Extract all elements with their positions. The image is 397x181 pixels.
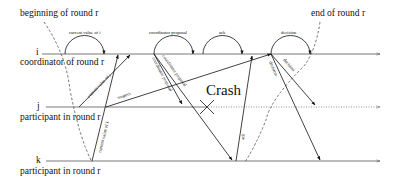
arc-ack <box>203 36 242 54</box>
process-j-name: j <box>36 101 40 111</box>
consensus-round-diagram: i coordinator of round r j participant i… <box>0 0 397 181</box>
phase-label-ack: ack <box>219 30 226 35</box>
msg-ack <box>236 56 252 161</box>
msg-label-decision-j: decision <box>282 57 296 72</box>
arc-decision <box>271 36 310 54</box>
msg-suspect <box>106 54 271 107</box>
process-k-role: participant in round r <box>20 166 101 176</box>
arc-current-value-i <box>65 36 104 54</box>
phase-label-decision: decision <box>281 30 297 35</box>
process-j-role: participant in round r <box>20 112 101 122</box>
process-i-name: i <box>36 47 39 57</box>
beginning-of-round-boundary <box>44 22 92 162</box>
arc-coordinator-proposal <box>154 36 193 54</box>
phase-label-current-value-i: current value of i <box>69 30 101 35</box>
msg-decision-to-k <box>271 54 320 160</box>
crash-label: Crash <box>206 82 241 98</box>
msg-label-current-value-j: current value of j <box>86 73 111 99</box>
end-of-round-boundary <box>245 22 320 162</box>
msg-label-suspect: suspect <box>117 91 132 100</box>
phase-label-coordinator-proposal: coordinator proposal <box>149 30 188 35</box>
msg-label-ack: ack <box>240 132 246 140</box>
beginning-of-round-label: beginning of round r <box>20 8 99 18</box>
msg-label-current-value-k: current value of k <box>97 120 110 153</box>
msg-decision-to-j <box>271 54 315 105</box>
msg-current-value-k <box>92 55 118 161</box>
end-of-round-label: end of round r <box>311 8 366 18</box>
process-k-name: k <box>36 155 41 165</box>
